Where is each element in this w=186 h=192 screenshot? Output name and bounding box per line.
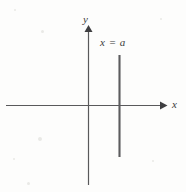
- x-axis-arrowhead-icon: [160, 102, 168, 110]
- scan-speck: [41, 30, 44, 33]
- scan-speck: [152, 160, 154, 162]
- x-axis-label: x: [172, 99, 177, 110]
- scan-speck: [27, 182, 30, 185]
- axes-and-line-graphic: [0, 0, 186, 192]
- vertical-line-label: x = a: [100, 37, 126, 48]
- y-axis-arrowhead-icon: [85, 25, 93, 32]
- scan-speck: [160, 18, 162, 20]
- scan-speck: [13, 158, 15, 160]
- coordinate-plane-figure: y x x = a: [0, 0, 186, 192]
- scan-speck: [14, 9, 16, 11]
- x-axis: [6, 102, 168, 110]
- scan-speck: [38, 137, 42, 141]
- y-axis-label: y: [83, 14, 88, 25]
